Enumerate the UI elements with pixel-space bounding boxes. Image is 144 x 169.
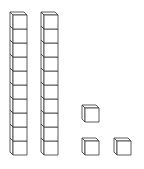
- cube-front-face: [85, 141, 99, 155]
- cube-front-face: [13, 85, 27, 99]
- cube-front-face: [13, 29, 27, 43]
- unit-cube-3: [114, 138, 131, 155]
- cube-front-face: [13, 141, 27, 155]
- cube-front-face: [13, 43, 27, 57]
- cube-front-face: [44, 15, 58, 29]
- unit-cube-1: [82, 105, 99, 122]
- cube-top-face: [114, 138, 131, 141]
- cube-front-face: [44, 85, 58, 99]
- cube-front-face: [44, 113, 58, 127]
- cube-top-face: [82, 105, 99, 108]
- cube-front-face: [13, 57, 27, 71]
- cube-front-face: [44, 127, 58, 141]
- ten-rod-1: [10, 12, 27, 155]
- cube-top-face: [41, 12, 58, 15]
- cube-front-face: [44, 71, 58, 85]
- cube-front-face: [13, 99, 27, 113]
- cube-top-face: [10, 12, 27, 15]
- cube-front-face: [13, 127, 27, 141]
- blocks-canvas: [0, 0, 144, 169]
- cube-front-face: [117, 141, 131, 155]
- cube-front-face: [13, 15, 27, 29]
- cube-front-face: [44, 43, 58, 57]
- cube-front-face: [44, 57, 58, 71]
- unit-cube-2: [82, 138, 99, 155]
- cube-front-face: [44, 141, 58, 155]
- cube-front-face: [44, 99, 58, 113]
- cube-top-face: [82, 138, 99, 141]
- ten-rod-2: [41, 12, 58, 155]
- cube-front-face: [13, 71, 27, 85]
- cube-front-face: [85, 108, 99, 122]
- cube-front-face: [13, 113, 27, 127]
- cube-front-face: [44, 29, 58, 43]
